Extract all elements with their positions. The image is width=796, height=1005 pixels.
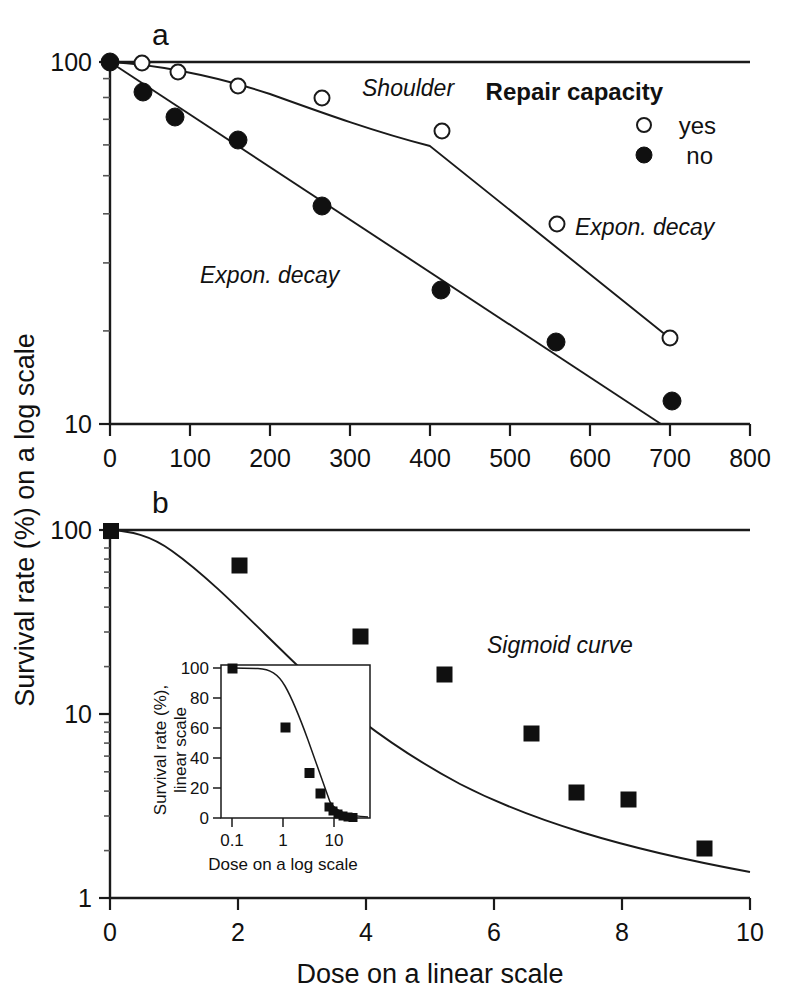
- figure-background: [0, 0, 796, 1005]
- legend-item-yes: yes: [679, 112, 716, 139]
- data-point: [134, 83, 152, 101]
- panel-a-x-tick-label-200: 200: [249, 444, 291, 472]
- panel-b-x-tick-label-2: 2: [231, 918, 245, 946]
- x-axis-title-text: Dose on a linear scale: [296, 959, 563, 989]
- panel-a-annotation-shoulder: Shoulder: [362, 75, 455, 101]
- inset-y-tick-label-60: 60: [190, 719, 209, 738]
- data-point: [229, 131, 247, 149]
- data-point: [166, 108, 184, 126]
- panel-b-annotation-sigmoid: Sigmoid curve: [487, 632, 633, 658]
- data-point: [281, 723, 290, 732]
- panel-b-label: b: [152, 486, 169, 519]
- panel-a-x-tick-label-100: 100: [169, 444, 211, 472]
- data-point: [437, 667, 452, 682]
- panel-b-y-tick-label-10: 10: [64, 700, 92, 728]
- inset-y-tick-label-40: 40: [190, 749, 209, 768]
- legend-item-no: no: [686, 142, 713, 169]
- y-axis-title-text: Survival rate (%) on a log scale: [10, 333, 40, 707]
- data-point: [663, 331, 678, 346]
- survival-curve-figure: Survival rate (%) on a log scale a 100 1…: [0, 0, 796, 1005]
- panel-b-x-tick-label-4: 4: [359, 918, 373, 946]
- data-point: [315, 91, 330, 106]
- panel-a-x-tick-label-700: 700: [649, 444, 691, 472]
- data-point: [313, 197, 331, 215]
- panel-b-y-tick-label-100: 100: [50, 516, 92, 544]
- figure-y-axis-title: Survival rate (%) on a log scale: [10, 333, 40, 707]
- data-point: [231, 79, 246, 94]
- data-point: [524, 726, 539, 741]
- panel-b-x-tick-label-0: 0: [103, 918, 117, 946]
- data-point: [663, 392, 681, 410]
- inset-y-axis-title-line1: Survival rate (%),: [151, 685, 170, 815]
- data-point: [305, 769, 314, 778]
- panel-a-annotation-expon-lower: Expon. decay: [200, 262, 341, 288]
- data-point: [171, 65, 186, 80]
- panel-b-y-tick-label-1: 1: [78, 884, 92, 912]
- inset-y-axis-title-line2: linear scale: [171, 707, 190, 793]
- panel-b-x-tick-label-8: 8: [615, 918, 629, 946]
- data-point: [697, 841, 712, 856]
- panel-a-x-tick-label-800: 800: [729, 444, 771, 472]
- panel-a-x-tick-label-600: 600: [569, 444, 611, 472]
- panel-a-y-tick-label-10: 10: [64, 410, 92, 438]
- data-point: [621, 792, 636, 807]
- data-point: [435, 124, 450, 139]
- panel-a-annotation-expon-upper: Expon. decay: [575, 214, 716, 240]
- inset-x-axis-title: Dose on a log scale: [208, 855, 357, 874]
- panel-a-x-tick-label-0: 0: [103, 444, 117, 472]
- filled-circle-marker: [636, 147, 652, 163]
- inset-y-tick-label-100: 100: [181, 659, 209, 678]
- open-circle-marker: [637, 118, 651, 132]
- inset-x-tick-label-10: 10: [325, 831, 344, 850]
- data-point: [349, 814, 357, 822]
- panel-b-x-tick-label-10: 10: [736, 918, 764, 946]
- panel-a-x-tick-label-400: 400: [409, 444, 451, 472]
- figure-container: Survival rate (%) on a log scale a 100 1…: [0, 0, 796, 1005]
- inset-x-tick-label-1: 1: [278, 831, 287, 850]
- panel-a-x-tick-label-500: 500: [489, 444, 531, 472]
- inset-y-tick-label-0: 0: [200, 809, 209, 828]
- inset-frame: [221, 665, 370, 818]
- data-point: [353, 629, 368, 644]
- data-point: [547, 333, 565, 351]
- data-point: [135, 56, 150, 71]
- data-point: [228, 664, 237, 673]
- data-point: [104, 524, 119, 539]
- data-point: [550, 217, 565, 232]
- inset-x-tick-label-0.1: 0.1: [220, 831, 244, 850]
- data-point: [569, 785, 584, 800]
- data-point: [232, 558, 247, 573]
- panel-b-x-tick-label-6: 6: [487, 918, 501, 946]
- data-point: [316, 789, 325, 798]
- data-point: [101, 53, 119, 71]
- panel-a-x-tick-label-300: 300: [329, 444, 371, 472]
- panel-a-y-tick-label-100: 100: [50, 48, 92, 76]
- panel-a-label: a: [152, 18, 169, 51]
- inset-y-tick-label-20: 20: [190, 779, 209, 798]
- inset-y-tick-label-80: 80: [190, 689, 209, 708]
- data-point: [432, 281, 450, 299]
- legend-title: Repair capacity: [486, 78, 664, 105]
